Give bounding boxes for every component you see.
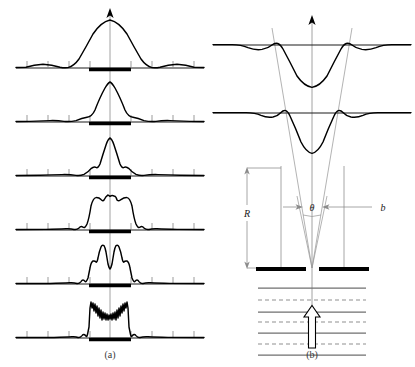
figure-root: (a) bbox=[0, 0, 415, 367]
panel-b-caption: (b) bbox=[306, 349, 318, 361]
dimension-b-label: b bbox=[381, 202, 386, 213]
angle-theta-label: θ bbox=[310, 202, 315, 213]
diffraction-figure: (a) bbox=[0, 0, 415, 367]
dimension-R-label: R bbox=[243, 208, 250, 219]
panel-a-caption: (a) bbox=[104, 349, 115, 361]
